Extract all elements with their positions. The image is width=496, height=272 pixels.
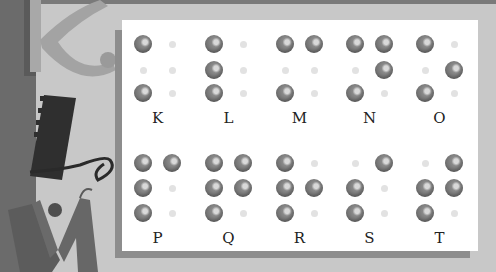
decorative-letter-l-icon [30,95,112,180]
empty-dot-4 [451,41,458,48]
raised-dot-1 [134,35,152,53]
raised-dot-5 [375,61,393,79]
empty-dot-5 [169,67,176,74]
raised-dot-2 [276,179,294,197]
empty-dot-1 [422,160,429,167]
empty-dot-5 [381,185,388,192]
empty-dot-4 [169,41,176,48]
empty-dot-6 [381,90,388,97]
braille-letter-label: T [420,230,460,246]
raised-dot-3 [346,204,364,222]
raised-dot-3 [416,204,434,222]
decorative-letter-k-icon [24,0,116,76]
braille-chart-panel: KLMNOPQRST [122,20,478,251]
empty-dot-2 [282,67,289,74]
raised-dot-3 [276,204,294,222]
raised-dot-3 [134,84,152,102]
raised-dot-4 [163,154,181,172]
raised-dot-5 [305,179,323,197]
raised-dot-1 [205,35,223,53]
braille-letter-label: Q [209,230,249,246]
raised-dot-2 [205,61,223,79]
raised-dot-4 [445,154,463,172]
braille-letter-label: K [138,110,178,126]
raised-dot-5 [234,179,252,197]
empty-dot-2 [352,67,359,74]
empty-dot-5 [311,67,318,74]
braille-letter-label: M [280,110,320,126]
empty-dot-6 [169,90,176,97]
empty-dot-6 [451,90,458,97]
raised-dot-4 [305,35,323,53]
raised-dot-2 [346,179,364,197]
raised-dot-1 [346,35,364,53]
empty-dot-5 [169,185,176,192]
empty-dot-4 [240,41,247,48]
raised-dot-2 [416,179,434,197]
raised-dot-3 [205,204,223,222]
raised-dot-3 [276,84,294,102]
empty-dot-6 [451,210,458,217]
raised-dot-1 [416,35,434,53]
raised-dot-3 [205,84,223,102]
raised-dot-1 [276,35,294,53]
raised-dot-4 [375,154,393,172]
empty-dot-2 [140,67,147,74]
raised-dot-3 [134,204,152,222]
braille-letter-label: N [350,110,390,126]
empty-dot-6 [311,210,318,217]
braille-letter-label: L [209,110,249,126]
raised-dot-3 [416,84,434,102]
empty-dot-6 [240,210,247,217]
raised-dot-4 [375,35,393,53]
raised-dot-3 [346,84,364,102]
empty-dot-6 [381,210,388,217]
empty-dot-5 [240,67,247,74]
braille-letter-label: O [420,110,460,126]
raised-dot-5 [445,179,463,197]
empty-dot-6 [311,90,318,97]
raised-dot-5 [445,61,463,79]
raised-dot-1 [205,154,223,172]
braille-letter-label: R [280,230,320,246]
empty-dot-6 [240,90,247,97]
panel-shadow-bottom [115,250,470,258]
empty-dot-1 [352,160,359,167]
raised-dot-1 [276,154,294,172]
braille-letter-label: S [350,230,390,246]
raised-dot-4 [234,154,252,172]
braille-letter-label: P [138,230,178,246]
raised-dot-1 [134,154,152,172]
empty-dot-4 [311,160,318,167]
empty-dot-6 [169,210,176,217]
decorative-letter-m-icon [8,189,98,272]
raised-dot-2 [134,179,152,197]
decorative-letters-illustration [0,0,125,272]
empty-dot-2 [422,67,429,74]
raised-dot-2 [205,179,223,197]
